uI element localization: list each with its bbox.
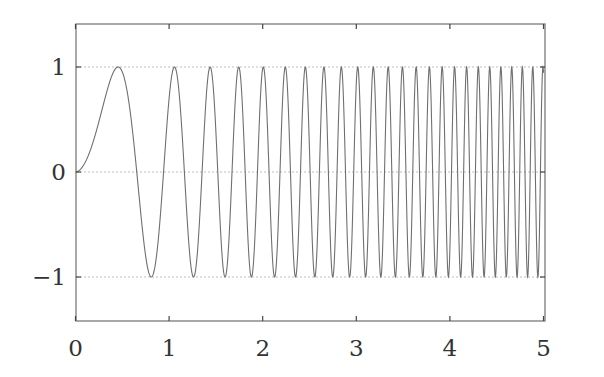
x-tick-label: 2 xyxy=(255,335,270,361)
y-tick-label: 0 xyxy=(51,159,66,185)
x-tick-label: 0 xyxy=(68,335,83,361)
x-tick-label: 5 xyxy=(536,335,551,361)
y-tick-label: 1 xyxy=(51,54,66,80)
x-axis-ticks: 012345 xyxy=(68,24,551,361)
x-tick-label: 3 xyxy=(349,335,364,361)
chirp-line-chart: 012345 −101 xyxy=(0,0,604,377)
x-tick-label: 4 xyxy=(443,335,458,361)
y-tick-label: −1 xyxy=(32,264,66,290)
x-tick-label: 1 xyxy=(162,335,177,361)
